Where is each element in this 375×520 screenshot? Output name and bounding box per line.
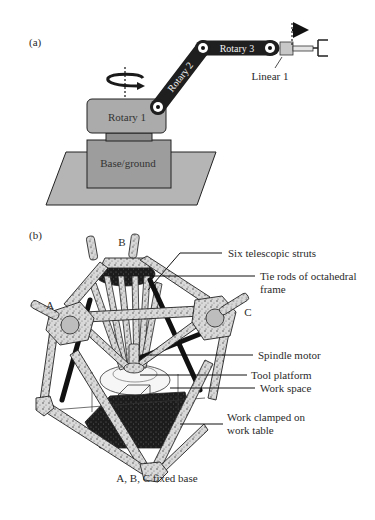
panel-a: (a) Base/ground Rotary 1 Rotary 2 Rotary… bbox=[29, 23, 328, 205]
linear1-block bbox=[280, 42, 293, 55]
callout-work-space: Work space bbox=[260, 382, 311, 394]
linear1-label: Linear 1 bbox=[252, 70, 289, 82]
fixed-base-caption: A, B, C fixed base bbox=[116, 472, 197, 484]
rotary3-label: Rotary 3 bbox=[220, 43, 255, 54]
figure-canvas: (a) Base/ground Rotary 1 Rotary 2 Rotary… bbox=[0, 0, 375, 520]
linear1-leader bbox=[275, 57, 282, 68]
base-ground-label: Base/ground bbox=[100, 157, 156, 169]
rotary1-label: Rotary 1 bbox=[108, 111, 146, 123]
callout-spindle-motor: Spindle motor bbox=[258, 349, 321, 361]
panel-a-label: (a) bbox=[29, 36, 42, 49]
joint-2 bbox=[195, 40, 211, 56]
callout-tool-platform: Tool platform bbox=[251, 369, 312, 381]
linear1-rod bbox=[293, 46, 313, 51]
callout-tie-rods-line1: Tie rods of octahedral bbox=[260, 270, 356, 282]
rotation-arrow-icon bbox=[108, 74, 145, 90]
panel-b-label: (b) bbox=[29, 229, 42, 242]
joint-1 bbox=[150, 99, 166, 115]
rotary1-neck bbox=[106, 133, 152, 141]
panel-b: (b) bbox=[29, 229, 356, 484]
gripper-icon bbox=[313, 40, 328, 56]
callout-tie-rods-line2: frame bbox=[260, 283, 286, 295]
callout-work-clamped-line1: Work clamped on bbox=[227, 411, 305, 423]
callout-work-clamped-line2: work table bbox=[227, 424, 274, 436]
callout-six-telescopic-struts: Six telescopic struts bbox=[228, 247, 316, 259]
vertex-b-label: B bbox=[118, 236, 125, 248]
vertex-a-label: A bbox=[46, 299, 54, 311]
vertex-c-label: C bbox=[244, 306, 251, 318]
joint-3 bbox=[262, 40, 278, 56]
